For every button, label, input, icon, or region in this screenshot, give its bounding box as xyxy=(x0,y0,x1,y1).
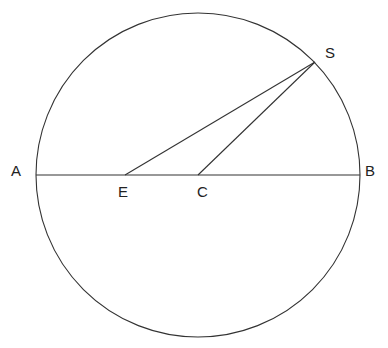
segment-CS xyxy=(198,62,315,175)
label-B: B xyxy=(365,162,375,179)
geometry-diagram: A B E C S xyxy=(0,0,388,348)
label-C: C xyxy=(197,183,208,200)
segment-ES xyxy=(125,62,315,175)
label-S: S xyxy=(325,44,335,61)
label-E: E xyxy=(118,183,128,200)
label-A: A xyxy=(11,162,21,179)
